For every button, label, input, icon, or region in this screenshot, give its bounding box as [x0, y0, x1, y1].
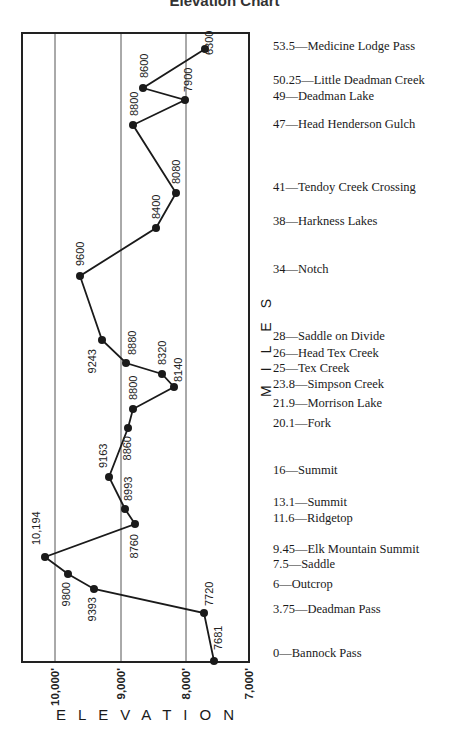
- landmark-label: 16—Summit: [273, 463, 338, 477]
- data-point: [210, 657, 218, 665]
- data-point: [105, 473, 113, 481]
- elevation-value-label: 9163: [97, 444, 109, 468]
- elevation-value-label: 7900: [182, 68, 194, 92]
- y-axis-label: MILES: [255, 285, 277, 397]
- landmark-label: 21.9—Morrison Lake: [273, 396, 382, 410]
- landmark-label: 9.45—Elk Mountain Summit: [273, 542, 419, 556]
- landmark-label: 3.75—Deadman Pass: [273, 602, 381, 616]
- landmark-label: 20.1—Fork: [273, 416, 331, 430]
- elevation-value-label: 7720: [203, 582, 215, 606]
- landmark-label: 41—Tendoy Creek Crossing: [273, 180, 416, 194]
- elevation-value-label: 6300: [203, 31, 215, 55]
- landmark-label: 11.6—Ridgetop: [273, 511, 353, 525]
- elevation-value-label: 7681: [212, 626, 224, 650]
- elevation-value-label: 8320: [156, 341, 168, 365]
- elevation-value-label: 9600: [74, 242, 86, 266]
- elevation-value-label: 8600: [138, 54, 150, 78]
- landmark-label: 49—Deadman Lake: [273, 89, 374, 103]
- data-point: [41, 553, 49, 561]
- elevation-value-label: 9393: [86, 597, 98, 621]
- data-point: [76, 272, 84, 280]
- landmark-label: 47—Head Henderson Gulch: [273, 117, 415, 131]
- data-point: [170, 383, 178, 391]
- data-point: [90, 585, 98, 593]
- landmark-label: 53.5—Medicine Lodge Pass: [273, 39, 415, 53]
- elevation-value-label: 9800: [60, 582, 72, 606]
- landmark-label: 0—Bannock Pass: [273, 646, 362, 660]
- elevation-value-label: 8080: [170, 160, 182, 184]
- data-point: [200, 609, 208, 617]
- landmark-label: 7.5—Saddle: [273, 557, 335, 571]
- data-point: [129, 121, 137, 129]
- landmark-label: 25—Tex Creek: [273, 361, 350, 375]
- landmark-label: 50.25—Little Deadman Creek: [273, 73, 425, 87]
- landmark-label: 34—Notch: [273, 262, 329, 276]
- elevation-value-label: 8800: [127, 376, 139, 400]
- landmark-label: 38—Harkness Lakes: [273, 214, 378, 228]
- landmark-label: 13.1—Summit: [273, 495, 347, 509]
- elevation-value-label: 8880: [126, 331, 138, 355]
- data-point: [139, 84, 147, 92]
- data-point: [152, 224, 160, 232]
- x-tick-label: 8,000': [180, 668, 192, 700]
- data-point: [122, 359, 130, 367]
- elevation-chart: 768177209393980010,194876089939163886088…: [0, 0, 449, 739]
- data-point: [158, 370, 166, 378]
- elevation-value-label: 10,194: [30, 511, 42, 545]
- elevation-value-label: 8400: [150, 195, 162, 219]
- data-point: [124, 424, 132, 432]
- elevation-value-label: 8993: [122, 477, 134, 501]
- data-point: [131, 520, 139, 528]
- elevation-value-label: 9243: [86, 349, 98, 373]
- data-point: [181, 96, 189, 104]
- data-point: [172, 189, 180, 197]
- elevation-value-label: 8860: [121, 436, 133, 460]
- data-point: [64, 570, 72, 578]
- elevation-value-label: 8760: [128, 534, 140, 558]
- x-axis-label: ELEVATION: [46, 706, 256, 723]
- landmark-label: 6—Outcrop: [273, 577, 333, 591]
- data-points: 768177209393980010,194876089939163886088…: [30, 31, 224, 665]
- landmark-label: 26—Head Tex Creek: [273, 346, 379, 360]
- elevation-value-label: 8800: [128, 92, 140, 116]
- landmark-label: 28—Saddle on Divide: [273, 329, 385, 343]
- x-tick-label: 10,000': [49, 668, 61, 706]
- x-axis-ticks: 10,000'9,000'8,000'7,000': [49, 668, 255, 706]
- x-tick-label: 7,000': [243, 668, 255, 700]
- data-point: [98, 336, 106, 344]
- data-point: [129, 405, 137, 413]
- landmark-label: 23.8—Simpson Creek: [273, 377, 384, 391]
- x-tick-label: 9,000': [115, 668, 127, 700]
- elevation-value-label: 8140: [172, 358, 184, 382]
- data-point: [121, 505, 129, 513]
